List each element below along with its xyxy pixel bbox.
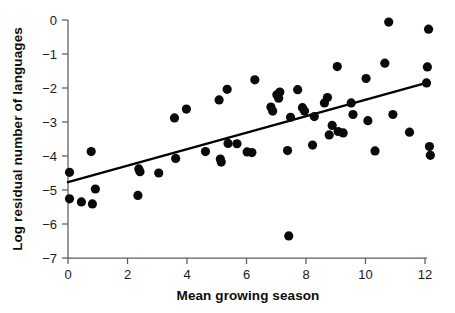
data-point [232,139,241,148]
data-point [333,62,342,71]
data-point [250,75,259,84]
data-point [325,130,334,139]
data-point [405,128,414,137]
data-point [170,113,179,122]
data-point [348,110,357,119]
x-axis-title: Mean growing season [177,288,320,303]
data-point [370,146,379,155]
data-point [275,87,284,96]
y-tick-label: −3 [42,115,57,130]
y-tick-label: −5 [42,183,57,198]
data-point [135,167,144,176]
y-axis-ticks [62,20,68,258]
data-point [424,25,433,34]
data-point [88,199,97,208]
x-tick-label: 0 [64,267,71,282]
data-point [217,158,226,167]
data-points-group [65,17,435,240]
data-point [361,74,370,83]
data-point [426,151,435,160]
data-point [380,59,389,68]
data-point [77,197,86,206]
y-axis-title: Log residual number of languages [10,27,25,251]
x-axis-ticks [68,258,425,264]
data-point [323,93,332,102]
data-point [308,141,317,150]
data-point [65,168,74,177]
data-point [310,112,319,121]
x-tick-label: 12 [418,267,432,282]
y-tick-label: −1 [42,47,57,62]
data-point [268,107,277,116]
data-point [154,168,163,177]
y-tick-label: −4 [42,149,57,164]
chart-figure: 0−1−2−3−4−5−6−7 024681012 Mean growing s… [0,0,455,313]
y-axis-tick-labels: 0−1−2−3−4−5−6−7 [42,13,57,266]
x-tick-label: 8 [302,267,309,282]
x-axis-tick-labels: 024681012 [64,267,432,282]
data-point [223,139,232,148]
data-point [425,142,434,151]
data-point [363,116,372,125]
data-point [91,184,100,193]
y-tick-label: −2 [42,81,57,96]
data-point [65,194,74,203]
data-point [422,78,431,87]
x-tick-label: 2 [124,267,131,282]
x-tick-label: 10 [358,267,372,282]
data-point [133,191,142,200]
data-point [247,148,256,157]
data-point [300,107,309,116]
data-point [171,154,180,163]
y-tick-label: −7 [42,251,57,266]
data-point [339,128,348,137]
data-point [388,110,397,119]
data-point [384,17,393,26]
x-tick-label: 4 [183,267,190,282]
y-tick-label: 0 [50,13,57,28]
data-point [182,104,191,113]
data-point [87,147,96,156]
data-point [284,231,293,240]
data-point [293,85,302,94]
data-point [283,146,292,155]
y-tick-label: −6 [42,217,57,232]
regression-line [68,83,426,182]
x-tick-label: 6 [243,267,250,282]
scatter-plot-svg: 0−1−2−3−4−5−6−7 024681012 Mean growing s… [0,0,455,313]
data-point [347,98,356,107]
data-point [215,95,224,104]
data-point [423,62,432,71]
data-point [201,147,210,156]
data-point [223,85,232,94]
data-point [286,113,295,122]
